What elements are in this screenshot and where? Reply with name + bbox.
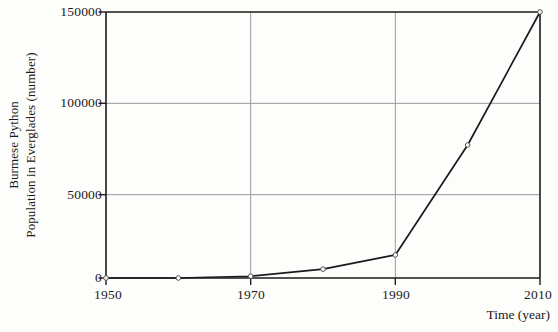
grid-lines [106,12,540,278]
data-line-burmese-python [106,12,540,278]
y-tick-label-150000: 150000 [40,5,102,19]
x-tick-label-1970: 1970 [237,288,265,302]
chart-figure: Burmese Python Population in Everglades … [0,0,558,332]
data-point-1990 [393,253,398,258]
data-point-1950 [104,276,109,281]
data-point-markers [104,10,543,281]
plot-area [106,12,540,278]
data-point-1960 [176,276,181,281]
axes-frame [106,12,540,278]
data-point-1970 [248,274,253,279]
y-axis-title-line-1: Burmese Python [5,52,22,237]
chart-canvas [98,4,548,286]
x-tick-label-1950: 1950 [94,288,122,302]
x-tick-label-1990: 1990 [382,288,410,302]
y-tick-label-50000: 50000 [40,188,102,202]
axis-ticks [99,12,541,285]
data-point-2010 [538,10,543,15]
data-point-2000 [465,143,470,148]
x-tick-label-2010: 2010 [524,288,552,302]
y-axis-tick-labels: 150000 100000 50000 0 [38,0,102,332]
y-tick-label-100000: 100000 [40,96,102,110]
y-axis-title-line-2: Population in Everglades (number) [22,52,39,237]
data-point-1980 [321,267,326,272]
x-axis-title: Time (year) [486,308,550,322]
y-tick-label-0: 0 [40,271,102,285]
